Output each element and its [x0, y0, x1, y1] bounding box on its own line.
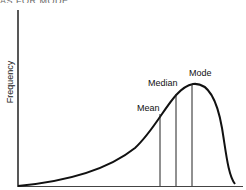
skewed-distribution-diagram: AS FOR MODE Frequency Mean Median Mode: [0, 0, 246, 190]
distribution-curve: [18, 84, 235, 186]
mean-label: Mean: [137, 103, 160, 113]
diagram-canvas: [0, 0, 246, 190]
mode-label: Mode: [189, 68, 212, 78]
y-axis-label: Frequency: [5, 57, 17, 107]
median-label: Median: [148, 78, 178, 88]
